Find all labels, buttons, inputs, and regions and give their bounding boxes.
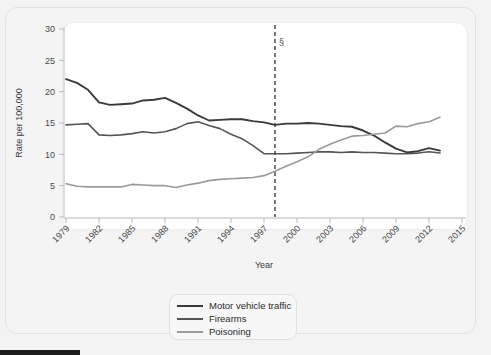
annotation-section-symbol: § [279,37,284,47]
y-axis-tick-label: 20 [45,87,55,97]
legend-swatch-motor-vehicle-traffic [177,305,203,307]
y-axis-tick-label: 0 [50,212,55,222]
line-chart: 051015202530Rate per 100,000197919821985… [6,8,477,335]
x-axis-tick-label: 2003 [314,223,335,244]
bottom-edge-bar [0,350,80,355]
x-axis-title: Year [255,260,273,270]
x-axis-tick-label: 2000 [281,223,302,244]
chart-outer-card: 051015202530Rate per 100,000197919821985… [5,7,476,334]
legend-item-poisoning[interactable]: Poisoning [177,325,290,338]
legend-item-motor-vehicle-traffic[interactable]: Motor vehicle traffic [177,299,290,312]
y-axis-tick-label: 30 [45,24,55,34]
x-axis-tick-label: 2006 [347,223,368,244]
legend-label-poisoning: Poisoning [209,325,251,338]
legend-label-firearms: Firearms [209,312,246,325]
chart-legend: Motor vehicle traffic Firearms Poisoning [169,294,297,340]
legend-label-motor-vehicle-traffic: Motor vehicle traffic [209,299,291,312]
x-axis-tick-label: 1979 [50,223,71,244]
x-axis-tick-label: 1994 [215,223,236,244]
y-axis-tick-label: 10 [45,150,55,160]
y-axis-tick-label: 15 [45,118,55,128]
y-axis-title: Rate per 100,000 [14,88,24,158]
y-axis-tick-label: 25 [45,56,55,66]
x-axis-tick-label: 1991 [182,223,203,244]
x-axis-tick-label: 1985 [116,223,137,244]
legend-swatch-firearms [177,318,203,320]
x-axis-tick-label: 2012 [413,223,434,244]
y-axis-tick-label: 5 [50,181,55,191]
legend-swatch-poisoning [177,331,203,333]
legend-item-firearms[interactable]: Firearms [177,312,290,325]
x-axis-tick-label: 2009 [380,223,401,244]
series-line-motor-vehicle-traffic [66,79,440,152]
x-axis-tick-label: 1988 [149,223,170,244]
x-axis-tick-label: 2015 [446,223,467,244]
series-line-firearms [66,122,440,154]
x-axis-tick-label: 1997 [248,223,269,244]
x-axis-tick-label: 1982 [83,223,104,244]
